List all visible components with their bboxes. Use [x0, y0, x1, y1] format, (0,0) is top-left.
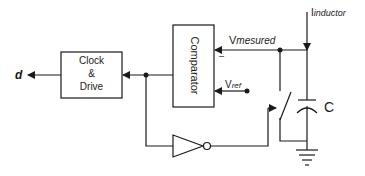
- minus-sign: –: [219, 52, 224, 61]
- output-d-label: d: [15, 69, 22, 81]
- comparator-label: Comparator: [189, 26, 200, 106]
- capacitor-label: C: [324, 100, 334, 114]
- switch-control-wire: [211, 108, 268, 146]
- v-ref-label: Vref: [225, 80, 241, 90]
- circuit-wires: [0, 0, 365, 176]
- i-inductor-label: Iinductor: [311, 8, 346, 18]
- clock-label: Clock: [61, 56, 122, 66]
- switch-blade: [280, 92, 291, 120]
- v-measured-label: Vmesured: [229, 35, 275, 46]
- feedback-wire: [146, 75, 173, 146]
- v-measured-sub: mesured: [236, 35, 275, 46]
- ampersand-label: &: [61, 69, 122, 79]
- v-ref-node: [245, 89, 250, 94]
- switch-bottom-wire: [280, 118, 307, 141]
- v-ref-sub: ref: [232, 81, 241, 90]
- i-inductor-sub: inductor: [314, 8, 346, 18]
- junction-node-measured: [278, 48, 283, 53]
- v-ref-main: V: [225, 79, 232, 90]
- inverter-bubble: [204, 143, 211, 150]
- inverter-gate: [173, 135, 203, 157]
- junction-node-feedback: [144, 73, 149, 78]
- circuit-diagram: Clock & Drive Comparator d Vmesured – Vr…: [0, 0, 365, 176]
- drive-label: Drive: [61, 82, 122, 92]
